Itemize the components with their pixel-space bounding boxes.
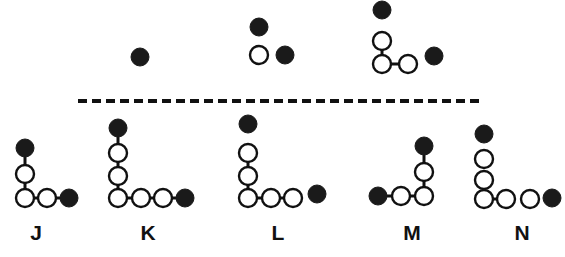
atom-filled — [373, 1, 391, 19]
atom-open — [475, 190, 493, 208]
atom-open — [239, 189, 257, 207]
atom-open — [250, 46, 268, 64]
atom-open — [497, 190, 515, 208]
atom-open — [392, 187, 410, 205]
atom-open — [521, 190, 539, 208]
atom-filled — [276, 46, 294, 64]
atom-open — [16, 165, 34, 183]
atom-open — [109, 189, 127, 207]
atom-filled — [475, 125, 493, 143]
atom-open — [132, 189, 150, 207]
atom-open — [239, 144, 257, 162]
atom-open — [109, 167, 127, 185]
atom-open — [262, 189, 280, 207]
atom-filled — [369, 187, 387, 205]
structure-label-M: M — [403, 222, 421, 243]
molecule-diagram-canvas — [0, 0, 565, 257]
atom-filled — [239, 115, 257, 133]
atom-layer — [16, 1, 561, 208]
atom-open — [373, 32, 391, 50]
atom-filled — [176, 189, 194, 207]
atom-filled — [543, 189, 561, 207]
atom-open — [475, 171, 493, 189]
structure-label-N: N — [514, 222, 529, 243]
atom-filled — [109, 119, 127, 137]
atom-filled — [16, 139, 34, 157]
atom-open — [284, 189, 302, 207]
atom-filled — [308, 185, 326, 203]
atom-open — [399, 55, 417, 73]
atom-open — [475, 150, 493, 168]
structure-label-J: J — [30, 222, 42, 243]
atom-filled — [415, 137, 433, 155]
atom-open — [239, 167, 257, 185]
diagram-stage: JKLMN — [0, 0, 565, 257]
atom-open — [415, 187, 433, 205]
atom-open — [373, 55, 391, 73]
atom-filled — [250, 18, 268, 36]
atom-open — [109, 144, 127, 162]
atom-filled — [131, 48, 149, 66]
atom-open — [38, 189, 56, 207]
atom-filled — [425, 47, 443, 65]
atom-open — [154, 189, 172, 207]
atom-open — [415, 163, 433, 181]
atom-filled — [60, 189, 78, 207]
atom-open — [16, 189, 34, 207]
structure-label-K: K — [140, 222, 155, 243]
structure-label-L: L — [272, 222, 285, 243]
